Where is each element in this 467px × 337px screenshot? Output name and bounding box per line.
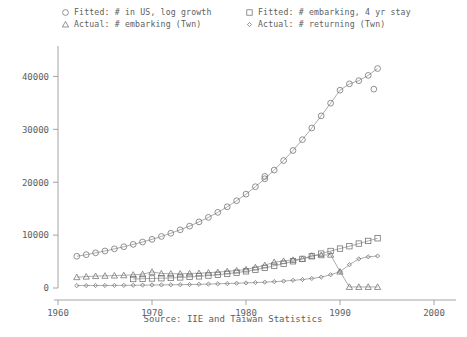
y-tick-label: 40000: [22, 72, 49, 82]
y-tick-label: 10000: [22, 230, 49, 240]
tick-labels: 0100002000030000400001960197019801990200…: [22, 72, 445, 318]
square-data-point: [247, 10, 252, 15]
triangle-data-point: [62, 21, 68, 27]
chart-figure: Fitted: # in US, log growth Actual: # em…: [0, 0, 467, 337]
legend-entry-fitted-in-us: Fitted: # in US, log growth: [60, 7, 212, 18]
plot-area: 0100002000030000400001960197019801990200…: [0, 0, 467, 337]
legend-label: Actual: # embarking (Twn): [74, 19, 201, 30]
series-2: [131, 236, 381, 282]
y-tick-label: 30000: [22, 125, 49, 135]
legend-entry-fitted-embarking: Fitted: # embarking, 4 yr stay: [244, 7, 411, 18]
chart-caption: Source: IIE and Taiwan Statistics: [144, 314, 323, 324]
series-0: [74, 66, 381, 260]
legend-label: Fitted: # embarking, 4 yr stay: [258, 7, 411, 18]
triangle-marker-icon: [60, 19, 71, 30]
y-tick-label: 0: [44, 283, 49, 293]
legend-label: Actual: # returning (Twn): [258, 19, 385, 30]
y-tick-label: 20000: [22, 178, 49, 188]
outlier-point: [371, 86, 377, 92]
square-marker-icon: [244, 7, 255, 18]
legend-entry-actual-returning: Actual: # returning (Twn): [244, 19, 385, 30]
legend-label: Fitted: # in US, log growth: [74, 7, 212, 18]
x-tick-label: 1960: [47, 308, 69, 318]
chart-legend: Fitted: # in US, log growth Actual: # em…: [0, 0, 467, 40]
legend-entry-actual-embarking: Actual: # embarking (Twn): [60, 19, 201, 30]
circle-data-point: [63, 10, 69, 16]
x-tick-label: 1990: [329, 308, 351, 318]
diamond-marker-icon: [244, 19, 255, 30]
x-tick-label: 2000: [423, 308, 445, 318]
diamond-data-point: [247, 22, 251, 26]
circle-marker-icon: [60, 7, 71, 18]
data-series: [74, 66, 381, 290]
circle-data-point: [371, 86, 377, 92]
